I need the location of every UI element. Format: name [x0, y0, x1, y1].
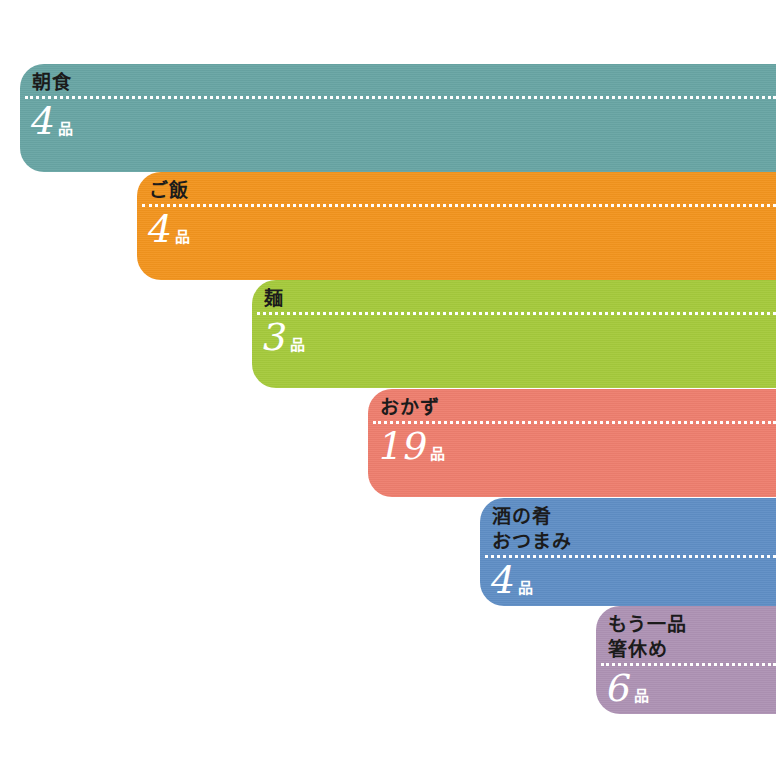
category-title-line1: 朝食 — [32, 70, 72, 95]
category-title: おかず — [380, 395, 440, 420]
category-title: もう一品 箸休め — [608, 612, 687, 662]
category-title: ご飯 — [149, 178, 189, 203]
category-count: 6品 — [607, 667, 650, 711]
category-title-line2: 箸休め — [608, 637, 687, 662]
category-count: 19品 — [379, 425, 446, 469]
category-title-line1: もう一品 — [608, 612, 687, 637]
count-number: 4 — [148, 207, 172, 251]
dotted-divider — [485, 555, 776, 558]
category-title-line1: 麺 — [264, 286, 284, 311]
dotted-divider — [142, 204, 776, 207]
count-unit: 品 — [518, 579, 534, 597]
count-number: 3 — [263, 315, 287, 359]
count-number: 6 — [607, 666, 631, 710]
count-unit: 品 — [175, 228, 191, 246]
category-bar-rice: ご飯 4品 — [137, 172, 776, 280]
count-number: 4 — [31, 99, 55, 143]
category-count: 4品 — [31, 100, 74, 144]
category-bar-sake-snacks: 酒の肴 おつまみ 4品 — [480, 498, 776, 606]
category-title-line1: ご飯 — [149, 178, 189, 203]
count-number: 19 — [379, 424, 427, 468]
category-title-line1: おかず — [380, 395, 440, 420]
category-bar-noodles: 麺 3品 — [252, 280, 776, 388]
count-number: 4 — [491, 558, 515, 602]
category-bar-one-more-dish: もう一品 箸休め 6品 — [596, 606, 776, 714]
dotted-divider — [25, 96, 776, 99]
count-unit: 品 — [58, 120, 74, 138]
category-title: 麺 — [264, 286, 284, 311]
category-bar-side-dishes: おかず 19品 — [368, 389, 776, 497]
category-title-line1: 酒の肴 — [492, 504, 572, 529]
dotted-divider — [257, 312, 776, 315]
category-title-line2: おつまみ — [492, 529, 572, 554]
count-unit: 品 — [634, 687, 650, 705]
category-bar-breakfast: 朝食 4品 — [20, 64, 776, 172]
count-unit: 品 — [290, 336, 306, 354]
category-count: 3品 — [263, 316, 306, 360]
count-unit: 品 — [430, 445, 446, 463]
category-title: 酒の肴 おつまみ — [492, 504, 572, 554]
category-count: 4品 — [148, 208, 191, 252]
page-canvas: 朝食 4品 ご飯 4品 麺 3品 おかず 19品 — [0, 0, 776, 762]
dotted-divider — [373, 421, 776, 424]
category-count: 4品 — [491, 559, 534, 603]
category-title: 朝食 — [32, 70, 72, 95]
